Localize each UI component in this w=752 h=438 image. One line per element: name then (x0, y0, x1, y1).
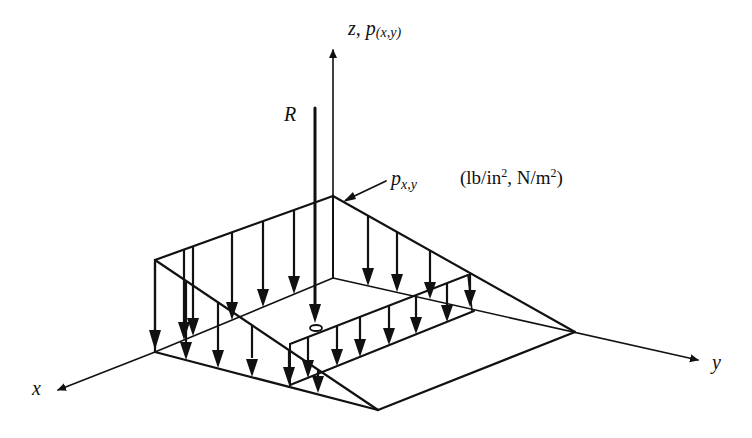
resultant-application-point (310, 325, 322, 331)
bottom-right-edge (378, 332, 575, 410)
load-diagram (0, 0, 752, 438)
x-axis-label: x (32, 378, 41, 398)
x-axis (58, 352, 155, 390)
resultant-arrowhead (309, 304, 321, 323)
floor-back-left-edge (155, 278, 333, 352)
front-slope-edge (155, 260, 378, 410)
load-arrows-front-block (180, 282, 324, 393)
load-arrows-left-block (149, 210, 300, 350)
y-axis (333, 278, 698, 360)
pressure-leader-arrowhead (343, 192, 356, 202)
top-back-edge (155, 196, 333, 260)
z-axis-label: z, p(x,y) (348, 18, 401, 38)
pressure-label: px,y (391, 168, 417, 188)
bottom-front-edge (155, 352, 378, 410)
resultant-label: R (284, 104, 296, 124)
units-label: (lb/in2, N/m2) (460, 168, 563, 187)
back-slope-edge (333, 196, 575, 332)
y-axis-label: y (712, 352, 721, 372)
